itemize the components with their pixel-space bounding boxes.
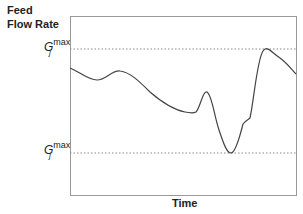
flow-rate-curve: [70, 49, 296, 153]
plot-frame: [71, 17, 297, 196]
x-axis-label: Time: [172, 197, 197, 209]
plot-area: [0, 0, 303, 214]
